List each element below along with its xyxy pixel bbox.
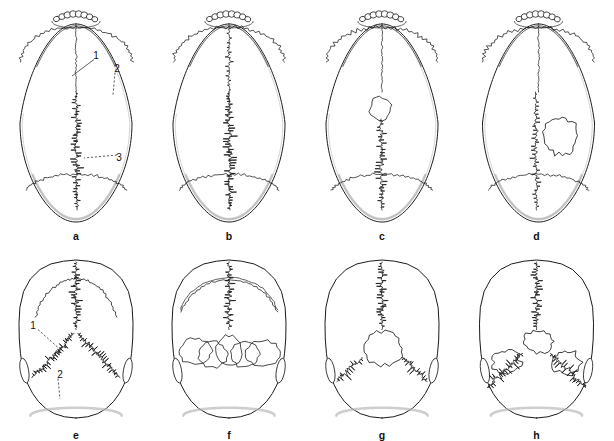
figure-panel-grid: 123 a b c d 12 e f g h: [0, 0, 614, 441]
panel-d-letter: d: [459, 230, 614, 242]
panel-c-letter: c: [306, 230, 458, 242]
panel-f-drawing: [153, 246, 305, 441]
panel-g: g: [306, 246, 458, 441]
callout-leader-line: [72, 60, 94, 77]
panel-e-letter: e: [0, 429, 152, 441]
callout-label-3: 3: [116, 152, 122, 163]
panel-b: b: [153, 0, 305, 242]
callout-leader-line: [38, 330, 62, 352]
callout-leader-line: [84, 155, 117, 158]
panel-a: 123 a: [0, 0, 152, 242]
panel-g-drawing: [306, 246, 458, 441]
callout-label-2: 2: [114, 63, 120, 74]
panel-d: d: [459, 0, 614, 242]
panel-e: 12 e: [0, 246, 152, 441]
panel-c-drawing: [306, 0, 458, 242]
panel-b-drawing: [153, 0, 305, 242]
callout-label-1: 1: [30, 320, 36, 331]
callout-label-1: 1: [93, 50, 99, 61]
panel-g-letter: g: [306, 429, 458, 441]
panel-c: c: [306, 0, 458, 242]
panel-b-letter: b: [153, 230, 305, 242]
callout-leader-line: [58, 379, 60, 400]
panel-a-letter: a: [0, 230, 152, 242]
panel-h: h: [459, 246, 614, 441]
panel-h-drawing: [459, 246, 614, 441]
panel-e-drawing: 12: [0, 246, 152, 441]
panel-f: f: [153, 246, 305, 441]
callout-leader-line: [113, 73, 115, 96]
panel-f-letter: f: [153, 429, 305, 441]
callout-label-2: 2: [57, 369, 63, 380]
panel-h-letter: h: [459, 429, 614, 441]
panel-a-drawing: 123: [0, 0, 152, 242]
panel-d-drawing: [459, 0, 614, 242]
